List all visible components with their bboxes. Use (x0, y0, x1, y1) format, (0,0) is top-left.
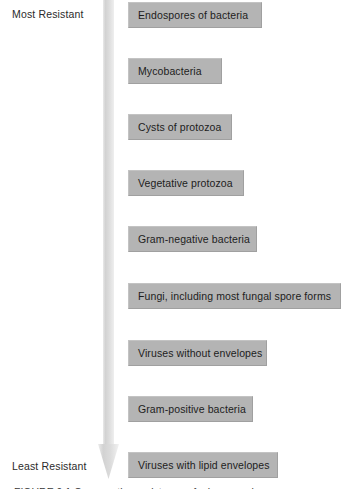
organism-box: Viruses without envelopes (128, 340, 267, 366)
figure-caption: FIGURE 9.1 Comparative resistance of mic… (14, 486, 344, 498)
organism-box: Endospores of bacteria (128, 2, 262, 28)
organism-box: Gram-positive bacteria (128, 396, 253, 422)
organism-box: Cysts of protozoa (128, 114, 232, 140)
organism-box: Mycobacteria (128, 58, 222, 84)
resistance-figure: Most Resistant Least Resistant (0, 0, 347, 498)
organism-box-label: Gram-negative bacteria (129, 233, 250, 245)
organism-box-label: Fungi, including most fungal spore forms (129, 290, 331, 302)
organism-box: Gram-negative bacteria (128, 226, 257, 252)
down-arrow-shape (97, 0, 125, 480)
axis-label-most-resistant: Most Resistant (12, 8, 84, 20)
organism-box: Fungi, including most fungal spore forms (128, 283, 341, 309)
organism-box: Vegetative protozoa (128, 170, 244, 196)
organism-box-label: Viruses with lipid envelopes (129, 459, 270, 471)
organism-box-label: Endospores of bacteria (129, 9, 248, 21)
axis-label-least-resistant: Least Resistant (12, 460, 87, 472)
organism-box-label: Gram-positive bacteria (129, 403, 246, 415)
organism-box: Viruses with lipid envelopes (128, 452, 278, 478)
organism-box-label: Mycobacteria (129, 65, 202, 77)
organism-box-label: Vegetative protozoa (129, 177, 233, 189)
caption-clip-mask (14, 489, 344, 498)
organism-box-label: Viruses without envelopes (129, 347, 262, 359)
organism-box-label: Cysts of protozoa (129, 121, 221, 133)
down-arrow-icon (97, 0, 125, 480)
